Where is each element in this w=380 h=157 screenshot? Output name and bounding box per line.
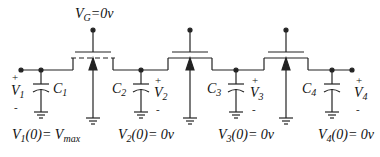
voltage-label-2: V2	[154, 86, 168, 102]
initial-condition-3: V3(0)= 0v	[218, 128, 274, 144]
voltage-label-3: V3	[250, 86, 264, 102]
minus-sign-3: -	[252, 104, 256, 115]
capacitor-label-4: C4	[302, 82, 316, 98]
gate-voltage-label: VG=0v	[75, 7, 113, 23]
minus-sign-4: -	[356, 104, 360, 115]
voltage-label-4: V4	[354, 86, 368, 102]
capacitor-label-3: C3	[207, 82, 221, 98]
plus-sign-1: +	[12, 72, 18, 83]
capacitor-2	[133, 70, 149, 112]
initial-condition-1: V1(0)= Vmax	[12, 128, 80, 144]
voltage-label-1: V1	[11, 84, 25, 100]
minus-sign-2: -	[156, 104, 160, 115]
initial-condition-4: V4(0)= 0v	[318, 128, 374, 144]
minus-sign-1: -	[14, 102, 18, 113]
capacitor-label-1: C1	[53, 82, 67, 98]
ground-icon	[34, 112, 339, 124]
capacitor-4	[324, 70, 340, 112]
capacitor-label-2: C2	[112, 82, 126, 98]
capacitor-1	[33, 70, 49, 112]
initial-condition-2: V2(0)= 0v	[118, 128, 174, 144]
capacitor-3	[228, 70, 244, 112]
